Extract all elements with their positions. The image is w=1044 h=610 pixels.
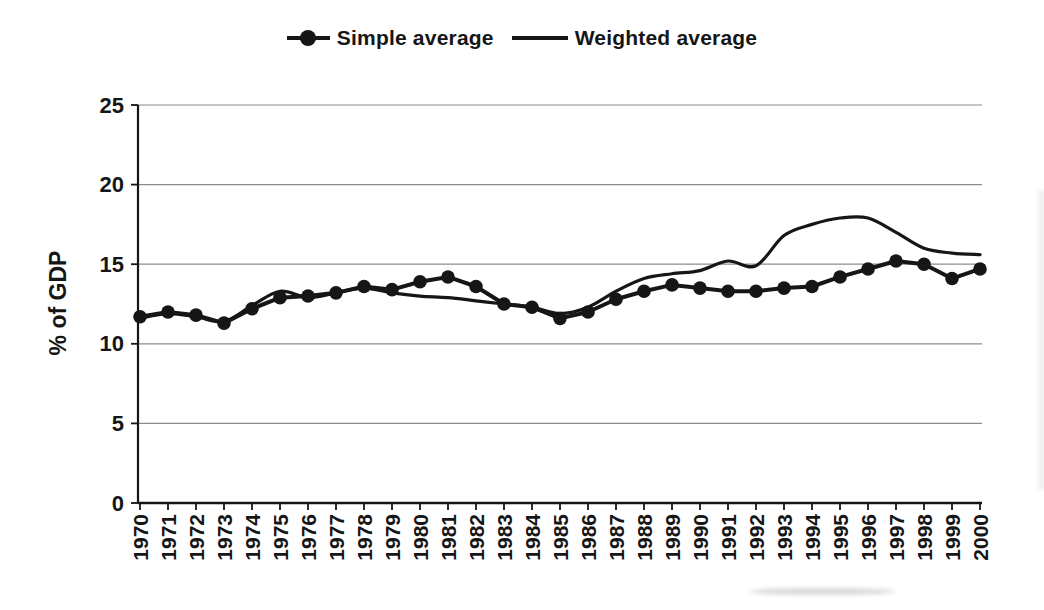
x-tick-label: 1999 [941,514,964,561]
simple-average-marker [133,310,147,324]
x-tick-label: 1996 [857,514,880,561]
x-tick-label: 1985 [549,514,572,561]
x-tick-label: 1977 [325,514,348,561]
x-tick-label: 1971 [157,514,180,561]
x-tick-label: 1991 [717,514,740,561]
x-tick-label: 1993 [773,514,796,561]
x-tick-label: 1980 [409,514,432,561]
simple-average-marker [217,316,231,330]
simple-average-marker [777,281,791,295]
x-tick-label: 1994 [801,514,824,561]
y-tick-label: 5 [112,411,124,436]
x-tick-label: 1987 [605,514,628,561]
simple-average-marker [637,284,651,298]
x-tick-label: 1998 [913,514,936,561]
x-tick-label: 1990 [689,514,712,561]
simple-average-marker [385,283,399,297]
x-tick-label: 1978 [353,514,376,561]
simple-average-marker [917,257,931,271]
simple-average-marker [469,280,483,294]
scan-smudge-artifact [750,588,895,595]
y-tick-label: 10 [100,331,124,356]
x-tick-label: 1988 [633,514,656,561]
y-tick-label: 15 [100,252,124,277]
x-tick-label: 1984 [521,514,544,561]
gdp-line-chart: 0510152025197019711972197319741975197619… [0,0,1044,610]
simple-average-marker [721,284,735,298]
simple-average-marker [609,292,623,306]
x-tick-label: 1979 [381,514,404,561]
x-tick-label: 1982 [465,514,488,561]
scan-edge-artifact [1039,190,1044,490]
simple-average-marker [749,284,763,298]
simple-average-marker [189,308,203,322]
x-tick-label: 1973 [213,514,236,561]
simple-average-marker [357,280,371,294]
x-tick-label: 2000 [969,514,992,561]
x-tick-label: 1976 [297,514,320,561]
x-tick-label: 1981 [437,514,460,561]
simple-average-marker [973,262,987,276]
x-tick-label: 1995 [829,514,852,561]
y-tick-label: 0 [112,491,124,516]
x-tick-label: 1992 [745,514,768,561]
x-tick-label: 1974 [241,514,264,561]
simple-average-marker [945,272,959,286]
simple-average-marker [329,286,343,300]
simple-average-marker [805,280,819,294]
simple-average-marker [553,312,567,326]
simple-average-marker [301,289,315,303]
simple-average-marker [273,291,287,305]
simple-average-marker [861,262,875,276]
x-tick-label: 1972 [185,514,208,561]
simple-average-marker [441,270,455,284]
simple-average-marker [525,300,539,314]
simple-average-marker [693,281,707,295]
simple-average-marker [413,275,427,289]
x-tick-label: 1970 [129,514,152,561]
x-tick-label: 1989 [661,514,684,561]
simple-average-marker [497,297,511,311]
x-tick-label: 1983 [493,514,516,561]
weighted-average-line [140,217,980,322]
x-tick-label: 1975 [269,514,292,561]
x-tick-label: 1986 [577,514,600,561]
y-tick-label: 20 [100,172,124,197]
y-tick-label: 25 [100,93,124,118]
simple-average-marker [161,305,175,319]
chart-page: Simple average Weighted average 05101520… [0,0,1044,610]
y-axis-title: % of GDP [45,251,71,356]
simple-average-marker [665,278,679,292]
simple-average-marker [889,254,903,268]
simple-average-marker [581,305,595,319]
x-tick-label: 1997 [885,514,908,561]
simple-average-marker [245,302,259,316]
simple-average-marker [833,270,847,284]
